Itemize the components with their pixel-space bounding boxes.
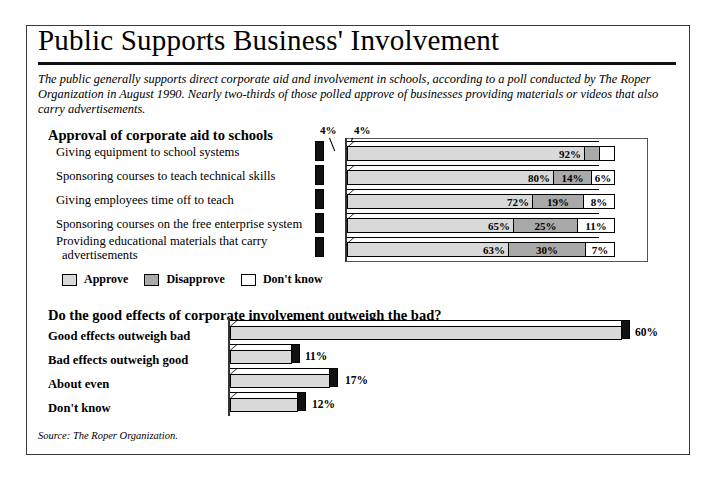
bar-endcap bbox=[315, 189, 324, 209]
bar-label: Good effects outweigh bad bbox=[48, 329, 190, 344]
segment-dontknow: 8% bbox=[583, 194, 615, 209]
bar-endcap bbox=[621, 320, 630, 339]
stacked-bar: 72% 19% 8% bbox=[347, 194, 617, 209]
stacked-bar: 92% bbox=[347, 146, 617, 161]
bar-label-line2: advertisements bbox=[56, 248, 311, 262]
legend-swatch-disapprove-icon bbox=[144, 274, 159, 286]
chart-good-effects: Good effects outweigh bad 60% Bad effect… bbox=[48, 326, 648, 426]
bar-endcap bbox=[291, 344, 300, 363]
bar-endcap bbox=[329, 368, 338, 387]
segment-disapprove bbox=[584, 146, 600, 161]
bar-label: Don't know bbox=[48, 401, 111, 416]
bar-value: 11% bbox=[305, 350, 327, 362]
segment-approve: 72% bbox=[347, 194, 533, 209]
legend-label-dontknow: Don't know bbox=[263, 272, 323, 287]
bar-bevel bbox=[230, 392, 298, 397]
section1-heading: Approval of corporate aid to schools bbox=[48, 127, 273, 144]
bar-label: Giving employees time off to teach bbox=[56, 193, 234, 207]
segment-approve: 80% bbox=[347, 170, 554, 185]
legend-swatch-dontknow-icon bbox=[241, 274, 256, 286]
intro-paragraph: The public generally supports direct cor… bbox=[38, 72, 678, 117]
segment-disapprove: 14% bbox=[553, 170, 592, 185]
page-title: Public Supports Business' Involvement bbox=[38, 24, 499, 57]
bar-value: 60% bbox=[635, 326, 658, 338]
bar-bevel bbox=[230, 368, 330, 373]
chart-approval-stacked: 4% 4% Giving equipment to school systems… bbox=[48, 146, 648, 264]
table-row: Don't know 12% bbox=[48, 398, 648, 420]
table-row: Good effects outweigh bad 60% bbox=[48, 326, 648, 348]
poster-page: Public Supports Business' Involvement Th… bbox=[0, 0, 718, 481]
segment-approve: 92% bbox=[347, 146, 585, 161]
table-row: Providing educational materials that car… bbox=[48, 242, 648, 265]
source-note: Source: The Roper Organization. bbox=[38, 430, 178, 441]
bar bbox=[230, 350, 292, 364]
legend-label-disapprove: Disapprove bbox=[166, 272, 224, 287]
bar-bevel bbox=[230, 344, 292, 349]
table-row: About even 17% bbox=[48, 374, 648, 396]
segment-dontknow: 6% bbox=[591, 170, 615, 185]
bar-label: Sponsoring courses to teach technical sk… bbox=[56, 169, 275, 183]
legend-swatch-approve-icon bbox=[62, 274, 77, 286]
title-rule bbox=[38, 62, 676, 65]
bar-endcap bbox=[315, 141, 324, 161]
legend-label-approve: Approve bbox=[84, 272, 128, 287]
bar-value: 17% bbox=[345, 374, 368, 386]
segment-disapprove: 19% bbox=[532, 194, 584, 209]
stacked-bar: 80% 14% 6% bbox=[347, 170, 617, 185]
segment-approve: 63% bbox=[347, 242, 509, 257]
bar-endcap bbox=[315, 165, 324, 185]
bar-label: Sponsoring courses on the free enterpris… bbox=[56, 217, 302, 231]
bar-label: About even bbox=[48, 377, 109, 392]
table-row: Bad effects outweigh good 11% bbox=[48, 350, 648, 372]
bar-endcap bbox=[297, 392, 306, 411]
callout-dontknow-4: 4% bbox=[354, 124, 371, 136]
segment-disapprove: 30% bbox=[508, 242, 586, 257]
segment-approve: 65% bbox=[347, 218, 514, 233]
segment-dontknow: 11% bbox=[577, 218, 615, 233]
bar bbox=[230, 374, 330, 388]
bar-value: 12% bbox=[312, 398, 335, 410]
segment-dontknow: 7% bbox=[585, 242, 615, 257]
chart1-legend: Approve Disapprove Don't know bbox=[62, 272, 332, 287]
segment-dontknow bbox=[599, 146, 615, 161]
callout-disapprove-4: 4% bbox=[320, 124, 337, 136]
bar-endcap bbox=[315, 237, 324, 257]
bar bbox=[230, 398, 298, 412]
bar-label: Giving equipment to school systems bbox=[56, 145, 239, 159]
stacked-bar: 63% 30% 7% bbox=[347, 242, 617, 257]
bar-endcap bbox=[315, 213, 324, 233]
bar bbox=[230, 326, 622, 340]
bar-label: Bad effects outweigh good bbox=[48, 353, 188, 368]
bar-label: Providing educational materials that car… bbox=[56, 234, 311, 262]
bar-bevel bbox=[230, 320, 622, 325]
segment-disapprove: 25% bbox=[513, 218, 578, 233]
stacked-bar: 65% 25% 11% bbox=[347, 218, 617, 233]
